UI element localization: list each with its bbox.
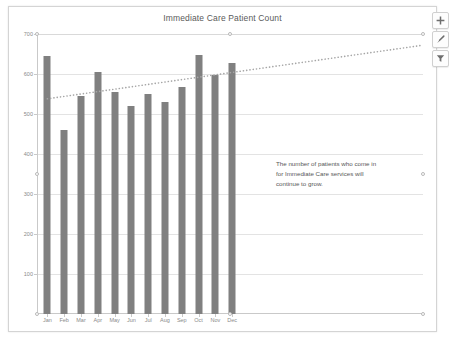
bar[interactable] <box>77 96 84 314</box>
bar[interactable] <box>212 75 219 314</box>
selection-handle-bottom-left[interactable] <box>35 312 39 316</box>
selection-handle-bottom-center[interactable] <box>228 312 232 316</box>
x-axis-label-feb: Feb <box>59 317 68 323</box>
bar[interactable] <box>229 63 236 314</box>
y-axis-label-200: 200 <box>24 231 33 237</box>
x-axis-label-mar: Mar <box>76 317 85 323</box>
bar[interactable] <box>61 130 68 314</box>
y-axis-label-500: 500 <box>24 111 33 117</box>
x-axis-label-nov: Nov <box>211 317 221 323</box>
bar[interactable] <box>111 92 118 314</box>
bar[interactable] <box>195 55 202 314</box>
paintbrush-icon <box>436 35 445 44</box>
bar-group-aug[interactable]: Aug <box>157 34 174 314</box>
annotation-textbox[interactable]: The number of patients who come in for I… <box>276 159 396 190</box>
selection-handle-top-center[interactable] <box>228 32 232 36</box>
bar[interactable] <box>178 87 185 314</box>
y-axis-label-600: 600 <box>24 71 33 77</box>
chart-object[interactable]: Immediate Care Patient Count 10020030040… <box>8 6 437 332</box>
x-axis-label-aug: Aug <box>160 317 170 323</box>
chart-filters-button[interactable] <box>432 50 449 67</box>
annotation-line-2: for Immediate Care services will <box>276 169 396 179</box>
bar-group-jun[interactable]: Jun <box>123 34 140 314</box>
bar[interactable] <box>145 94 152 314</box>
bar[interactable] <box>128 106 135 314</box>
y-axis-label-400: 400 <box>24 151 33 157</box>
x-axis-label-apr: Apr <box>94 317 103 323</box>
x-axis-label-jan: Jan <box>43 317 52 323</box>
selection-handle-middle-left[interactable] <box>35 172 39 176</box>
bar-group-jul[interactable]: Jul <box>140 34 157 314</box>
chart-tools-bar[interactable] <box>432 12 449 67</box>
bar-group-apr[interactable]: Apr <box>89 34 106 314</box>
chart-elements-button[interactable] <box>432 12 449 29</box>
chart-styles-button[interactable] <box>432 31 449 48</box>
chart-title[interactable]: Immediate Care Patient Count <box>9 13 436 23</box>
selection-handle-top-left[interactable] <box>35 32 39 36</box>
bar-group-oct[interactable]: Oct <box>190 34 207 314</box>
selection-handle-bottom-right[interactable] <box>421 312 425 316</box>
bar[interactable] <box>161 102 168 314</box>
funnel-icon <box>436 54 445 63</box>
annotation-line-3: continue to grow. <box>276 179 396 189</box>
y-axis-label-700: 700 <box>24 31 33 37</box>
bar-group-jan[interactable]: Jan <box>39 34 56 314</box>
bar[interactable] <box>94 72 101 314</box>
bar[interactable] <box>44 56 51 314</box>
x-axis-label-may: May <box>109 317 119 323</box>
bar-group-feb[interactable]: Feb <box>56 34 73 314</box>
y-axis-label-100: 100 <box>24 271 33 277</box>
x-axis-label-oct: Oct <box>194 317 203 323</box>
x-axis-label-dec: Dec <box>227 317 237 323</box>
bar-group-nov[interactable]: Nov <box>207 34 224 314</box>
x-axis-label-jun: Jun <box>127 317 136 323</box>
x-axis-label-sep: Sep <box>177 317 187 323</box>
bar-group-sep[interactable]: Sep <box>173 34 190 314</box>
bar-group-mar[interactable]: Mar <box>73 34 90 314</box>
annotation-line-1: The number of patients who come in <box>276 159 396 169</box>
selection-handle-top-right[interactable] <box>421 32 425 36</box>
y-axis-label-300: 300 <box>24 191 33 197</box>
selection-handle-middle-right[interactable] <box>421 172 425 176</box>
plus-icon <box>436 16 445 25</box>
bar-group-may[interactable]: May <box>106 34 123 314</box>
bar-group-dec[interactable]: Dec <box>224 34 241 314</box>
x-axis-label-jul: Jul <box>145 317 152 323</box>
